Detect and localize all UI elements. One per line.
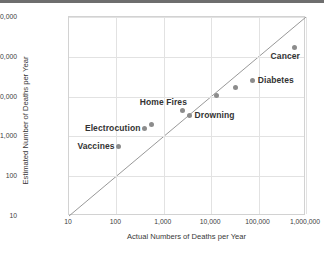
gridline-vertical xyxy=(306,17,307,214)
x-axis-tick-label: 10 xyxy=(64,218,72,225)
y-axis-tick-label: 1,000 xyxy=(0,132,17,139)
y-axis-tick-label: 100 xyxy=(0,172,17,179)
x-axis-title: Actual Numbers of Deaths per Year xyxy=(68,232,305,241)
x-axis-tick-label: 100 xyxy=(110,218,121,225)
gridline-horizontal xyxy=(69,57,304,58)
top-bar xyxy=(0,0,324,3)
x-axis-tick-label: 100,000 xyxy=(245,218,270,225)
x-axis-tick-label: 1,000 xyxy=(154,218,171,225)
data-point-label-diabetes: Diabetes xyxy=(258,75,294,85)
data-point-label-drowning: Drowning xyxy=(195,110,235,120)
x-axis-tick-label: 10,000 xyxy=(200,218,221,225)
gridline-vertical xyxy=(164,17,165,214)
gridline-horizontal xyxy=(69,176,304,177)
plot-area: VaccinesElectrocutionHome FiresDrowningD… xyxy=(68,16,305,215)
gridline-horizontal xyxy=(69,17,304,18)
data-point-point-unlabeled-a[interactable] xyxy=(149,122,154,127)
data-point-label-electrocution: Electrocution xyxy=(85,123,141,133)
y-axis-tick-label: 10,000 xyxy=(0,92,17,99)
y-axis-tick-label: 100,000 xyxy=(0,52,17,59)
gridline-vertical xyxy=(259,17,260,214)
y-axis-tick-label: 10 xyxy=(0,212,17,219)
data-point-label-home-fires: Home Fires xyxy=(140,97,187,107)
data-point-label-vaccines: Vaccines xyxy=(77,141,114,151)
data-point-point-unlabeled-b[interactable] xyxy=(214,93,219,98)
data-point-label-cancer: Cancer xyxy=(271,51,300,61)
gridline-vertical xyxy=(116,17,117,214)
chart-figure: VaccinesElectrocutionHome FiresDrowningD… xyxy=(0,0,324,256)
gridline-horizontal xyxy=(69,136,304,137)
data-point-drowning[interactable] xyxy=(187,113,192,118)
x-axis-tick-label: 1,000,000 xyxy=(290,218,320,225)
data-point-vaccines[interactable] xyxy=(116,144,121,149)
data-point-diabetes[interactable] xyxy=(250,78,255,83)
data-point-point-unlabeled-c[interactable] xyxy=(233,85,238,90)
y-axis-tick-label: 1,000,000 xyxy=(0,13,17,20)
y-axis-title: Estimated Number of Deaths per Year xyxy=(21,26,30,216)
